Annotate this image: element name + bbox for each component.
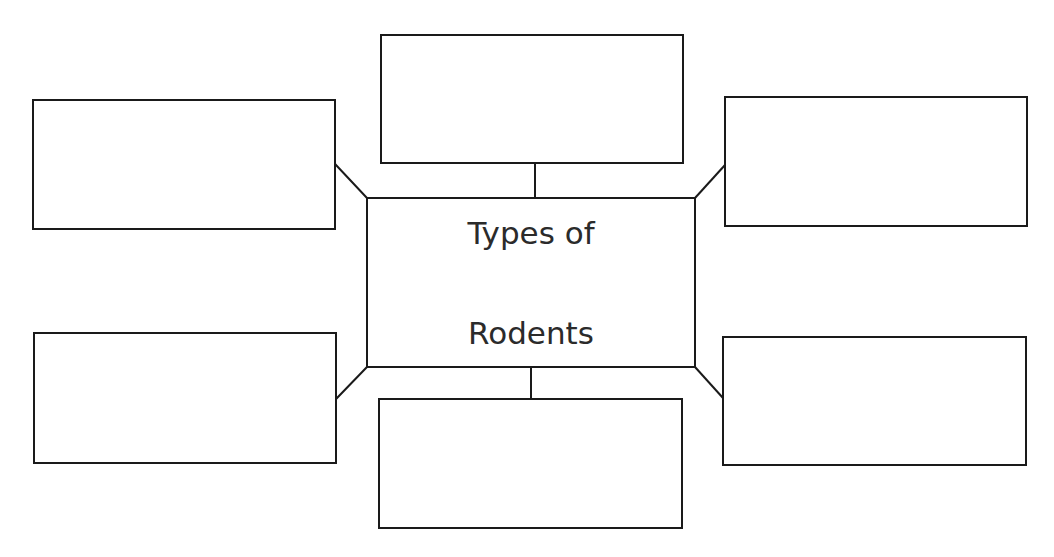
- center-title-line1: Types of: [467, 208, 594, 258]
- bottom-right-box[interactable]: [722, 336, 1027, 466]
- top-box[interactable]: [380, 34, 684, 164]
- top-left-box[interactable]: [32, 99, 336, 230]
- connector-bottom-right: [695, 367, 723, 398]
- top-right-box[interactable]: [724, 96, 1028, 227]
- connector-top-right: [695, 165, 725, 198]
- bottom-left-box[interactable]: [33, 332, 337, 464]
- bottom-box[interactable]: [378, 398, 683, 529]
- center-title: Types of Rodents: [467, 158, 594, 408]
- center-title-line2: Rodents: [467, 308, 594, 358]
- connector-top-left: [336, 165, 367, 198]
- rodent-graphic-organizer: Types of Rodents: [0, 0, 1054, 557]
- connector-bottom-left: [337, 367, 367, 398]
- center-box: Types of Rodents: [366, 197, 696, 368]
